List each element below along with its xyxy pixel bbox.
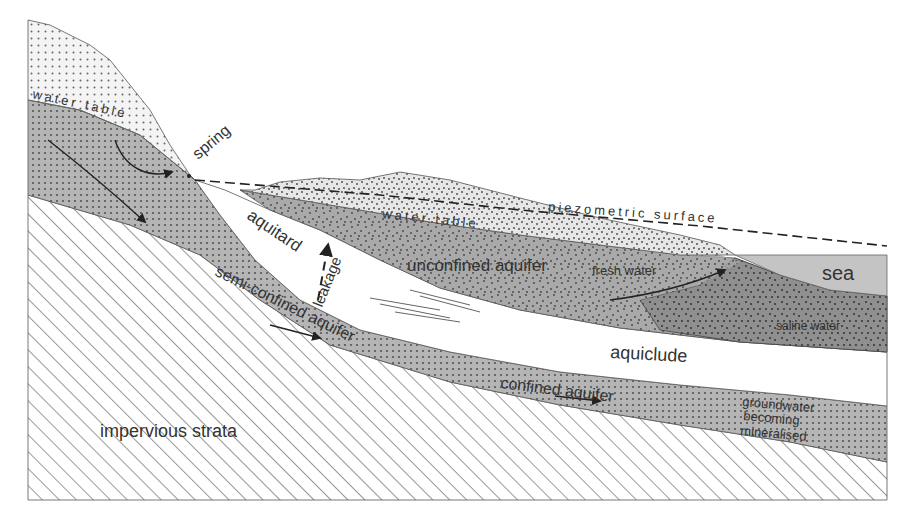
label-unconfined-aquifer: unconfined aquifer [407,256,547,275]
label-aquiclude: aquiclude [610,342,688,366]
label-saline-water: saline water [776,319,840,333]
label-spring: spring [189,121,233,162]
label-sea: sea [822,262,855,284]
spring-point [187,174,191,178]
label-impervious-strata: impervious strata [100,421,238,441]
label-fresh-water: fresh water [592,263,657,278]
aquifer-cross-section: water table spring water table piezometr… [0,0,913,523]
